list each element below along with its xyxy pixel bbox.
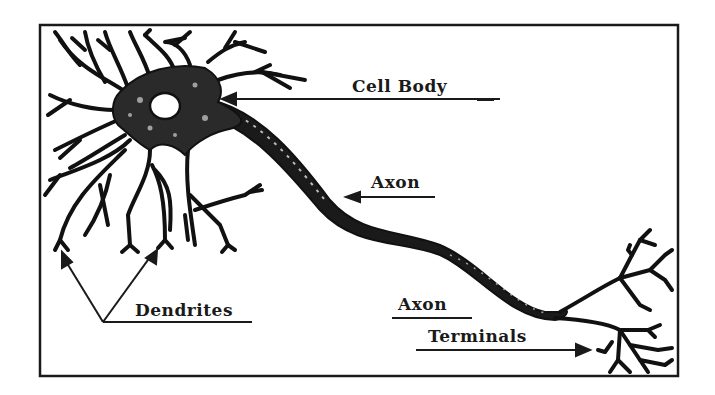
axon-terminals-underline bbox=[392, 317, 472, 319]
dendrites-label: Dendrites bbox=[135, 300, 233, 320]
cell-body-underline-tail bbox=[477, 99, 494, 101]
axon-terminals-label-line2: Terminals bbox=[428, 326, 527, 346]
axon bbox=[205, 100, 567, 320]
axon-terminals-label-line1: Axon bbox=[398, 294, 447, 314]
neuron-diagram bbox=[0, 0, 715, 395]
axon-label: Axon bbox=[371, 172, 420, 192]
nucleus bbox=[150, 93, 180, 119]
cell-body-label: Cell Body bbox=[352, 76, 447, 96]
